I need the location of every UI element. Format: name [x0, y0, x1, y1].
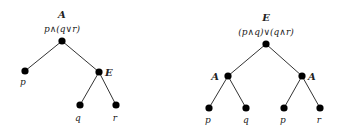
- leaf-label-p: p: [20, 77, 26, 87]
- node-e: [95, 68, 102, 75]
- leaf-label-r2: r: [317, 115, 322, 125]
- node-p1: [205, 104, 212, 111]
- edge-e-q: [80, 72, 99, 105]
- tree-right: E (p∧q)∨(q∧r) A A p q p r: [205, 12, 323, 125]
- leaf-label-r: r: [113, 113, 118, 123]
- leaf-label-p2: p: [280, 115, 286, 125]
- root-label: E: [261, 12, 270, 23]
- node-p: [21, 67, 28, 74]
- leaf-label-q: q: [75, 113, 81, 123]
- edge-a2-p: [284, 76, 302, 108]
- root-formula: (p∧q)∨(q∧r): [238, 27, 294, 37]
- edge-a1-q: [228, 76, 246, 108]
- node-a1: [224, 72, 231, 79]
- node-p2: [280, 104, 287, 111]
- edge-root-a2: [266, 44, 302, 76]
- node-r2: [316, 104, 323, 111]
- node-root: [262, 40, 269, 47]
- edge-root-e: [62, 41, 99, 72]
- node-q1: [242, 104, 249, 111]
- node-r: [112, 101, 119, 108]
- node-root: [58, 37, 65, 44]
- node-label-a2: A: [307, 71, 316, 82]
- node-q: [76, 101, 83, 108]
- edge-root-p: [25, 41, 62, 71]
- diagram-canvas: A p∧(q∨r) p E q r E (p∧q)∨(q∧r) A A p q …: [0, 0, 341, 130]
- node-a2: [298, 72, 305, 79]
- node-label-e: E: [104, 67, 113, 78]
- root-label: A: [57, 9, 66, 20]
- tree-left: A p∧(q∨r) p E q r: [20, 9, 119, 123]
- leaf-label-q1: q: [243, 115, 249, 125]
- leaf-label-p1: p: [205, 115, 211, 125]
- node-label-a1: A: [210, 71, 219, 82]
- edge-root-a1: [228, 44, 266, 76]
- root-formula: p∧(q∨r): [44, 24, 81, 34]
